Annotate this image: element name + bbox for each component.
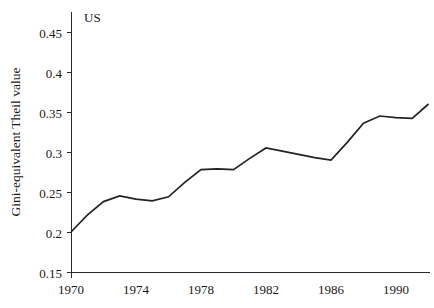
x-tick-label: 1978 [188, 282, 214, 297]
x-tick-label: 1990 [383, 282, 409, 297]
y-tick-label: 0.2 [46, 226, 62, 241]
x-tick-label: 1970 [58, 282, 84, 297]
y-axis-title: Gini-equivalent Theil value [8, 68, 23, 217]
x-tick-label: 1982 [253, 282, 279, 297]
chart-container: 0.15 0.2 0.25 0.3 0.35 0.4 0.45 Gini-equ… [0, 0, 434, 308]
data-series-line-us [71, 104, 429, 232]
y-axis-ticks [67, 33, 72, 273]
y-tick-label: 0.35 [39, 106, 62, 121]
x-axis-group: 1970 1974 1978 1982 1986 1990 [58, 273, 430, 298]
y-axis-tick-labels: 0.15 0.2 0.25 0.3 0.35 0.4 0.45 [39, 26, 62, 281]
x-tick-label: 1974 [123, 282, 150, 297]
x-axis-tick-labels: 1970 1974 1978 1982 1986 1990 [58, 282, 409, 297]
line-chart: 0.15 0.2 0.25 0.3 0.35 0.4 0.45 Gini-equ… [0, 0, 434, 308]
y-tick-label: 0.3 [46, 146, 62, 161]
series-annotation-label: US [84, 10, 101, 25]
y-tick-label: 0.15 [39, 266, 62, 281]
y-tick-label: 0.45 [39, 26, 62, 41]
y-tick-label: 0.25 [39, 186, 62, 201]
y-axis-group: 0.15 0.2 0.25 0.3 0.35 0.4 0.45 Gini-equ… [8, 12, 72, 281]
x-tick-label: 1986 [318, 282, 345, 297]
y-tick-label: 0.4 [46, 66, 63, 81]
